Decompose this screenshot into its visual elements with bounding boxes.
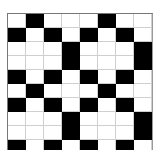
grid-cell-filled[interactable] [26,14,44,28]
grid-cell-empty[interactable] [80,42,98,56]
grid-cell-filled[interactable] [134,112,152,126]
grid-cell-empty[interactable] [98,70,116,84]
grid-cell-filled[interactable] [116,140,134,150]
grid-cell-filled[interactable] [8,70,26,84]
grid-cell-empty[interactable] [98,140,116,150]
grid-cell-empty[interactable] [134,84,152,98]
grid-cell-filled[interactable] [62,56,80,70]
grid-cell-empty[interactable] [44,84,62,98]
grid-cell-filled[interactable] [44,98,62,112]
grid-cell-filled[interactable] [80,98,98,112]
grid-cell-empty[interactable] [8,42,26,56]
grid-cell-empty[interactable] [62,84,80,98]
grid-cell-empty[interactable] [98,126,116,140]
grid-cell-empty[interactable] [62,14,80,28]
grid-cell-filled[interactable] [8,28,26,42]
grid-cell-empty[interactable] [26,56,44,70]
grid-cell-empty[interactable] [134,14,152,28]
grid-cell-empty[interactable] [62,98,80,112]
grid-cell-empty[interactable] [116,14,134,28]
grid-cell-empty[interactable] [62,140,80,150]
grid-cell-empty[interactable] [62,70,80,84]
grid-cell-filled[interactable] [80,28,98,42]
grid-cell-empty[interactable] [80,112,98,126]
grid-cell-filled[interactable] [98,14,116,28]
grid-cell-filled[interactable] [80,70,98,84]
grid-cell-empty[interactable] [8,126,26,140]
grid-cell-empty[interactable] [116,126,134,140]
grid-cell-filled[interactable] [134,126,152,140]
grid-cell-empty[interactable] [98,42,116,56]
grid-cell-empty[interactable] [134,140,152,150]
grid-cell-filled[interactable] [134,56,152,70]
grid-cell-empty[interactable] [134,70,152,84]
grid-cell-empty[interactable] [98,56,116,70]
grid-cell-empty[interactable] [80,126,98,140]
grid-cell-empty[interactable] [116,56,134,70]
grid-cell-empty[interactable] [116,112,134,126]
grid-cell-filled[interactable] [62,112,80,126]
grid-cell-empty[interactable] [8,84,26,98]
grid-cell-empty[interactable] [116,84,134,98]
grid-cell-filled[interactable] [44,70,62,84]
grid-cell-filled[interactable] [134,42,152,56]
grid-cell-filled[interactable] [116,98,134,112]
grid-cell-empty[interactable] [116,42,134,56]
grid-cell-empty[interactable] [80,56,98,70]
grid-cell-empty[interactable] [26,28,44,42]
grid-cell-filled[interactable] [44,28,62,42]
grid-cell-filled[interactable] [116,70,134,84]
grid-cell-filled[interactable] [26,84,44,98]
grid-cell-empty[interactable] [26,140,44,150]
grid-cell-filled[interactable] [8,140,26,150]
grid-cell-empty[interactable] [26,126,44,140]
grid-cell-filled[interactable] [44,140,62,150]
grid-cell-empty[interactable] [98,98,116,112]
grid-cell-empty[interactable] [26,70,44,84]
grid-cell-empty[interactable] [134,98,152,112]
grid-cell-filled[interactable] [62,42,80,56]
grid-cell-empty[interactable] [26,98,44,112]
grid-cell-empty[interactable] [44,126,62,140]
pattern-grid-board [7,13,153,150]
grid-cell-filled[interactable] [8,98,26,112]
grid-cell-empty[interactable] [98,112,116,126]
grid-cell-empty[interactable] [26,42,44,56]
grid-cell-empty[interactable] [8,112,26,126]
grid-cell-empty[interactable] [26,112,44,126]
grid-cell-empty[interactable] [44,42,62,56]
grid-cell-filled[interactable] [116,28,134,42]
grid-cell-empty[interactable] [134,28,152,42]
grid-cell-empty[interactable] [98,28,116,42]
grid-cell-filled[interactable] [98,84,116,98]
grid-cell-filled[interactable] [62,126,80,140]
grid-cell-empty[interactable] [80,84,98,98]
grid-cell-filled[interactable] [80,140,98,150]
grid-cell-empty[interactable] [8,14,26,28]
grid-cell-empty[interactable] [44,14,62,28]
grid-cell-empty[interactable] [44,56,62,70]
grid-cell-empty[interactable] [80,14,98,28]
grid-cell-empty[interactable] [62,28,80,42]
grid-cell-empty[interactable] [44,112,62,126]
grid-cell-empty[interactable] [8,56,26,70]
